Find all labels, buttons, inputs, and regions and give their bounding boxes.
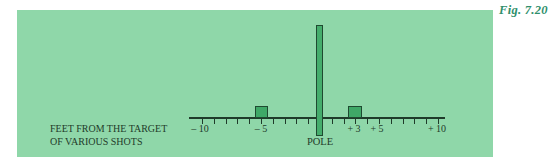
tick-label-plus-10: + 10 (428, 123, 446, 134)
shot-bar-plus-3 (348, 106, 362, 118)
x-axis-tick (237, 119, 238, 124)
pole-bar (316, 25, 323, 136)
x-axis-tick (367, 119, 368, 124)
x-axis-tick (296, 119, 297, 124)
x-axis-tick (344, 119, 345, 124)
tick-label-plus-5: + 5 (370, 123, 383, 134)
tick-label-plus-3: + 3 (347, 123, 360, 134)
tick-label-minus-10: – 10 (191, 123, 209, 134)
x-axis-tick (249, 119, 250, 124)
x-axis-tick (285, 119, 286, 124)
pole-label: POLE (307, 136, 333, 147)
x-axis-tick (273, 119, 274, 124)
shot-bar-minus-5 (255, 106, 268, 118)
axis-caption-line1: FEET FROM THE TARGET (50, 122, 167, 135)
x-axis-tick (332, 119, 333, 124)
x-axis-tick (414, 119, 415, 124)
tick-label-minus-5: – 5 (255, 123, 268, 134)
figure-label: Fig. 7.20 (499, 3, 548, 18)
axis-caption-line2: OF VARIOUS SHOTS (50, 135, 167, 148)
x-axis-tick (214, 119, 215, 124)
x-axis-tick (403, 119, 404, 124)
x-axis-tick (391, 119, 392, 124)
x-axis-tick (426, 119, 427, 124)
axis-caption: FEET FROM THE TARGET OF VARIOUS SHOTS (50, 122, 167, 148)
x-axis-tick (308, 119, 309, 124)
x-axis-tick (226, 119, 227, 124)
